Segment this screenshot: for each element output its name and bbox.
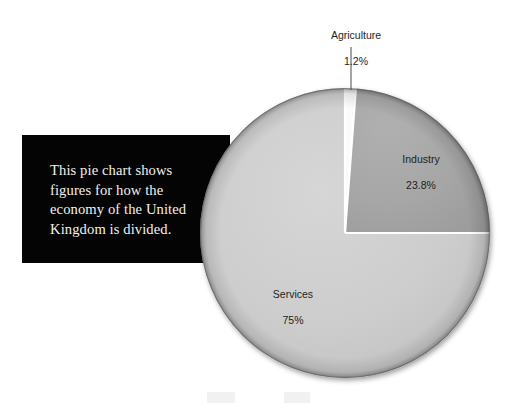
pie-chart-figure: This pie chart shows figures for how the…	[0, 0, 513, 404]
pie-label-agriculture-value: 1.2%	[296, 55, 416, 68]
pie-label-agriculture: Agriculture 1.2%	[296, 16, 416, 81]
pie-label-industry: Industry 23.8%	[366, 140, 476, 205]
pie-label-services-name: Services	[238, 288, 348, 301]
pie-label-agriculture-name: Agriculture	[296, 29, 416, 42]
pie-label-industry-value: 23.8%	[366, 179, 476, 192]
pie-label-services: Services 75%	[238, 275, 348, 340]
pie-label-services-value: 75%	[238, 314, 348, 327]
pie-label-industry-name: Industry	[366, 153, 476, 166]
